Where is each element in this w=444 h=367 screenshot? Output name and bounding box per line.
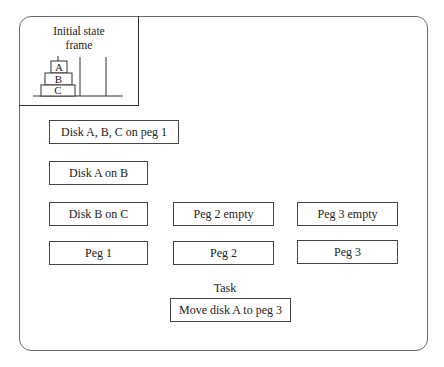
disk-c-label: C <box>41 85 75 96</box>
box-peg2: Peg 2 <box>173 241 274 265</box>
box-task: Move disk A to peg 3 <box>170 298 291 322</box>
box-peg3: Peg 3 <box>297 240 398 264</box>
disk-a-label: A <box>51 61 67 73</box>
box-peg2-empty: Peg 2 empty <box>173 202 274 226</box>
box-disk-a-on-b: Disk A on B <box>49 161 148 185</box>
task-label: Task <box>170 281 280 296</box>
box-disks-on-peg1: Disk A, B, C on peg 1 <box>49 120 179 144</box>
box-peg3-empty: Peg 3 empty <box>297 202 398 226</box>
box-disk-b-on-c: Disk B on C <box>49 202 148 226</box>
box-peg1: Peg 1 <box>49 241 148 265</box>
